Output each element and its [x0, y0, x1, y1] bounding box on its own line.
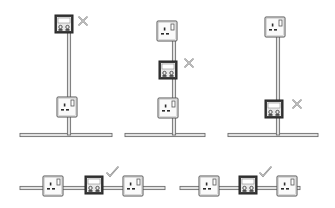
switch: [213, 179, 216, 185]
cross-mark-icon: [79, 17, 87, 25]
earth-pin: [130, 183, 132, 186]
live-pin: [281, 188, 284, 190]
earth-pin: [50, 183, 52, 186]
fused-spur-unit: [265, 100, 283, 118]
diagram-spur-on-ring-between-sockets-b: [180, 167, 300, 196]
switch: [279, 20, 282, 26]
socket-outlet: [277, 176, 297, 196]
live-pin: [162, 110, 165, 112]
switch: [291, 179, 294, 185]
switch: [57, 179, 60, 185]
check-mark-icon: [107, 167, 118, 176]
neutral-pin: [274, 29, 277, 31]
fused-spur-unit: [85, 176, 103, 194]
cable: [228, 133, 318, 136]
earth-pin: [206, 183, 208, 186]
fuse-holder: [88, 179, 100, 184]
cable: [125, 133, 205, 136]
fuse-holder: [58, 18, 70, 23]
socket-outlet: [265, 17, 285, 37]
fused-spur-unit: [239, 176, 257, 194]
socket-outlet: [123, 176, 143, 196]
neutral-pin: [132, 188, 135, 190]
socket-outlet: [158, 98, 178, 118]
diagram-spur-between-sockets-on-branch: [125, 21, 205, 137]
earth-pin: [64, 104, 66, 107]
switch: [71, 100, 74, 106]
diagram-spur-at-ring-then-socket: [228, 17, 318, 137]
live-pin: [47, 188, 50, 190]
check-mark-icon: [260, 167, 271, 176]
live-pin: [127, 188, 130, 190]
socket-outlet: [43, 176, 63, 196]
neutral-pin: [52, 188, 55, 190]
earth-pin: [165, 105, 167, 108]
fused-spur-unit: [159, 61, 177, 79]
cable: [276, 27, 279, 135]
socket-outlet: [57, 97, 77, 117]
neutral-pin: [166, 33, 169, 35]
cross-mark-icon: [185, 59, 193, 67]
fused-spur-unit: [55, 15, 73, 33]
socket-outlet: [157, 21, 177, 41]
wiring-diagram: [0, 0, 335, 208]
neutral-pin: [167, 110, 170, 112]
neutral-pin: [208, 188, 211, 190]
fuse-holder: [242, 179, 254, 184]
live-pin: [61, 109, 64, 111]
neutral-pin: [66, 109, 69, 111]
diagram-spur-on-ring-between-sockets-a: [20, 167, 165, 196]
diagram-spur-at-end-of-branch: [20, 15, 112, 137]
earth-pin: [272, 24, 274, 27]
live-pin: [203, 188, 206, 190]
cable: [172, 30, 175, 135]
switch: [172, 101, 175, 107]
switch: [137, 179, 140, 185]
switch: [171, 24, 174, 30]
cable: [20, 133, 112, 136]
cable: [67, 24, 70, 135]
neutral-pin: [286, 188, 289, 190]
socket-outlet: [199, 176, 219, 196]
fuse-holder: [268, 103, 280, 108]
live-pin: [269, 29, 272, 31]
live-pin: [161, 33, 164, 35]
cross-mark-icon: [293, 100, 301, 108]
fuse-holder: [162, 64, 174, 69]
earth-pin: [164, 28, 166, 31]
earth-pin: [284, 183, 286, 186]
